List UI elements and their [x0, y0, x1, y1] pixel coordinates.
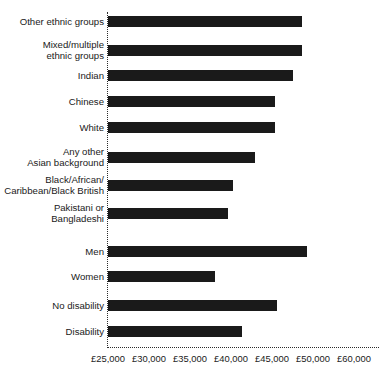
x-axis-tick-label: £60,000	[324, 352, 384, 366]
x-axis-tick-labels: £25,000£30,000£35,000£40,000£45,000£50,0…	[0, 352, 385, 368]
plot-area: Other ethnic groupsMixed/multiple ethnic…	[0, 0, 385, 378]
bar-category-label: White	[0, 122, 104, 133]
bar-category-label: Disability	[0, 326, 104, 337]
x-axis-line	[107, 347, 379, 348]
bar-category-label: Other ethnic groups	[0, 16, 104, 27]
bar-row: No disability	[0, 300, 385, 312]
bar	[108, 326, 242, 337]
bar-row: White	[0, 122, 385, 134]
bar-row: Chinese	[0, 96, 385, 108]
bar-row: Mixed/multiple ethnic groups	[0, 45, 385, 57]
bar	[108, 271, 215, 282]
bar-category-label: No disability	[0, 300, 104, 311]
bar-category-label: Black/African/ Caribbean/Black British	[0, 174, 104, 196]
bar	[108, 208, 228, 219]
bar-row: Pakistani or Bangladeshi	[0, 208, 385, 220]
bar-row: Any other Asian background	[0, 152, 385, 164]
bar-row: Disability	[0, 326, 385, 338]
bar	[108, 96, 275, 107]
bar	[108, 122, 275, 133]
bar-category-label: Men	[0, 246, 104, 257]
bar	[108, 70, 293, 81]
bar	[108, 16, 302, 27]
bar	[108, 152, 255, 163]
bar-category-label: Pakistani or Bangladeshi	[0, 202, 104, 224]
bar-category-label: Chinese	[0, 96, 104, 107]
bar	[108, 246, 307, 257]
bar-category-label: Mixed/multiple ethnic groups	[0, 39, 104, 61]
bar-chart: Other ethnic groupsMixed/multiple ethnic…	[0, 0, 385, 378]
bar	[108, 300, 277, 311]
bar	[108, 180, 233, 191]
bar-category-label: Indian	[0, 70, 104, 81]
bar-row: Men	[0, 246, 385, 258]
bar-row: Other ethnic groups	[0, 16, 385, 28]
bar-row: Indian	[0, 70, 385, 82]
bar	[108, 45, 302, 56]
bar-category-label: Women	[0, 271, 104, 282]
bar-category-label: Any other Asian background	[0, 146, 104, 168]
bar-row: Women	[0, 271, 385, 283]
bar-row: Black/African/ Caribbean/Black British	[0, 180, 385, 192]
